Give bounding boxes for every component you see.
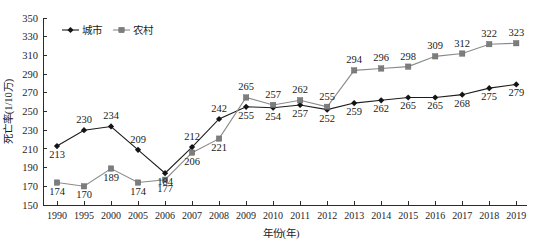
x-tick-label: 2008 <box>209 210 229 221</box>
value-label-urban-2011: 257 <box>292 108 308 119</box>
value-label-rural-2015: 298 <box>400 51 416 62</box>
data-point-rural-2019 <box>514 41 519 46</box>
data-point-rural-2005 <box>135 180 140 185</box>
data-series <box>54 41 519 189</box>
x-tick-label: 2017 <box>452 210 472 221</box>
data-point-rural-2014 <box>378 66 383 71</box>
x-axis: 1990199520002005200620072008200920102011… <box>43 201 527 221</box>
data-point-rural-2007 <box>189 150 194 155</box>
x-axis-title: 年份(年) <box>263 227 300 240</box>
x-tick-label: 2014 <box>371 210 391 221</box>
value-label-urban-2007: 212 <box>184 131 200 142</box>
value-label-urban-2010: 254 <box>265 111 282 122</box>
value-label-rural-2005: 174 <box>130 186 147 197</box>
y-tick-label: 350 <box>22 13 38 24</box>
value-label-rural-2016: 309 <box>427 40 443 51</box>
y-tick-label: 330 <box>22 31 38 42</box>
value-label-rural-2017: 312 <box>454 38 470 49</box>
y-tick-label: 290 <box>22 69 38 80</box>
data-point-rural-2010 <box>270 102 275 107</box>
value-label-rural-2000: 189 <box>103 172 119 183</box>
x-tick-label: 2012 <box>317 210 337 221</box>
value-label-rural-2010: 257 <box>265 89 281 100</box>
x-tick-label: 2011 <box>290 210 310 221</box>
value-label-rural-2007: 206 <box>184 156 200 167</box>
chart-legend[interactable]: 城市农村 <box>62 24 154 36</box>
data-value-labels: 2132302342091842122422552542572522592622… <box>49 27 524 200</box>
y-axis-title: 死亡率(1/10万) <box>2 78 15 144</box>
value-label-rural-2019: 323 <box>508 27 524 38</box>
x-tick-label: 2019 <box>506 210 526 221</box>
x-tick-label: 2000 <box>101 210 121 221</box>
data-point-rural-2009 <box>243 95 248 100</box>
y-tick-label: 230 <box>22 125 38 136</box>
data-point-urban-1995 <box>81 127 87 133</box>
value-label-urban-1990: 213 <box>49 149 65 160</box>
data-point-rural-2016 <box>433 54 438 59</box>
data-point-rural-2011 <box>297 98 302 103</box>
y-tick-label: 270 <box>22 87 38 98</box>
data-point-rural-1995 <box>81 184 86 189</box>
data-point-rural-2000 <box>108 166 113 171</box>
value-label-urban-2008: 242 <box>211 103 227 114</box>
value-label-rural-2011: 262 <box>292 84 308 95</box>
data-point-rural-2013 <box>351 68 356 73</box>
value-label-rural-2009: 265 <box>238 81 254 92</box>
value-label-urban-2019: 279 <box>508 87 524 98</box>
value-label-urban-2017: 268 <box>454 98 470 109</box>
x-tick-label: 2015 <box>398 210 418 221</box>
y-tick-label: 170 <box>22 181 38 192</box>
value-label-urban-1995: 230 <box>76 114 92 125</box>
value-label-urban-2016: 265 <box>427 100 443 111</box>
value-label-rural-2008: 221 <box>211 142 227 153</box>
y-tick-label: 250 <box>22 106 38 117</box>
value-label-urban-2000: 234 <box>103 110 120 121</box>
x-tick-label: 2013 <box>344 210 364 221</box>
y-axis: 150170190210230250270290310330350 <box>22 13 47 211</box>
value-label-urban-2014: 262 <box>373 103 389 114</box>
legend-marker-0 <box>67 27 73 33</box>
y-tick-label: 210 <box>22 144 38 155</box>
x-tick-label: 2006 <box>155 210 175 221</box>
value-label-rural-1990: 174 <box>49 186 66 197</box>
value-label-urban-2005: 209 <box>130 134 146 145</box>
data-point-rural-2015 <box>405 64 410 69</box>
line-chart: 150170190210230250270290310330350 199019… <box>0 0 535 245</box>
legend-label-0[interactable]: 城市 <box>82 24 102 36</box>
value-label-urban-2013: 259 <box>346 106 362 117</box>
x-tick-label: 2010 <box>263 210 283 221</box>
x-tick-label: 1995 <box>74 210 94 221</box>
value-label-rural-2018: 322 <box>481 28 497 39</box>
value-label-rural-2012: 255 <box>319 91 335 102</box>
x-tick-label: 2009 <box>236 210 256 221</box>
series-line-rural <box>57 43 516 186</box>
x-tick-label: 2016 <box>425 210 445 221</box>
legend-marker-1 <box>119 27 124 32</box>
x-tick-label: 2007 <box>182 210 202 221</box>
value-label-urban-2009: 255 <box>238 110 254 121</box>
x-tick-label: 1990 <box>47 210 67 221</box>
data-point-rural-2017 <box>460 51 465 56</box>
value-label-rural-2013: 294 <box>346 54 363 65</box>
y-tick-label: 310 <box>22 50 38 61</box>
x-tick-label: 2018 <box>479 210 499 221</box>
value-label-rural-2014: 296 <box>373 52 389 63</box>
data-point-rural-1990 <box>54 180 59 185</box>
series-line-urban <box>57 84 516 173</box>
value-label-urban-2018: 275 <box>481 91 497 102</box>
value-label-urban-2012: 252 <box>319 113 335 124</box>
data-point-rural-2012 <box>324 104 329 109</box>
value-label-urban-2015: 265 <box>400 100 416 111</box>
legend-label-1[interactable]: 农村 <box>133 24 154 36</box>
value-label-rural-1995: 170 <box>76 189 92 200</box>
data-point-rural-2008 <box>216 136 221 141</box>
chart-container: 150170190210230250270290310330350 199019… <box>0 0 535 245</box>
y-tick-label: 190 <box>22 162 38 173</box>
data-point-rural-2018 <box>487 41 492 46</box>
x-tick-label: 2005 <box>128 210 148 221</box>
value-label-rural-2006: 177 <box>157 183 173 194</box>
y-tick-label: 150 <box>22 200 38 211</box>
